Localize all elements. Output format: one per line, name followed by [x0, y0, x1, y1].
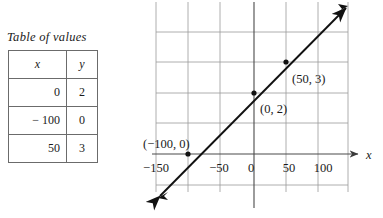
cell-y-value: 2: [67, 79, 98, 107]
cell-y-value: 3: [67, 135, 98, 163]
cell-y-value: 0: [67, 107, 98, 135]
x-tick-label-50: 50: [283, 161, 296, 175]
x-tick-label-0: 0: [248, 161, 254, 175]
data-point-0-2: [251, 90, 256, 95]
cell-x-value: − 100: [9, 107, 67, 135]
point-label-50-3: (50, 3): [292, 72, 325, 86]
table-row: 50 3: [9, 135, 98, 163]
data-point-neg100-0: [185, 151, 190, 156]
table-row: 0 2: [9, 79, 98, 107]
cell-x-value: 50: [9, 135, 67, 163]
graph-panel: (−100, 0) (0, 2) (50, 3) −150 −50 0 50 1…: [130, 0, 383, 218]
point-label-0-2: (0, 2): [260, 102, 287, 116]
values-table: x y 0 2 − 100 0 50 3: [8, 50, 98, 163]
table-header-row: x y: [9, 51, 98, 79]
data-point-50-3: [283, 59, 288, 64]
table-caption: Table of values: [7, 30, 87, 45]
x-tick-label-100: 100: [314, 161, 333, 175]
table-row: − 100 0: [9, 107, 98, 135]
column-header-x: x: [9, 51, 67, 79]
x-axis-label: x: [365, 148, 372, 162]
column-header-y: y: [67, 51, 98, 79]
table-of-values-panel: Table of values x y 0 2 − 100 0 50 3: [0, 0, 130, 218]
cell-x-value: 0: [9, 79, 67, 107]
x-tick-label-neg150: −150: [143, 161, 169, 175]
x-tick-label-neg50: −50: [209, 161, 229, 175]
point-label-neg100-0: (−100, 0): [143, 137, 190, 151]
coordinate-plane-chart: (−100, 0) (0, 2) (50, 3) −150 −50 0 50 1…: [130, 0, 383, 218]
